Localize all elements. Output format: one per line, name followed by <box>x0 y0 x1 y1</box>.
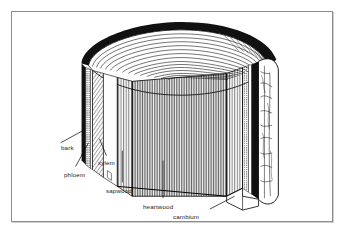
label-xylem: xylem <box>98 159 115 166</box>
label-heartwood: heartwood <box>143 203 173 210</box>
label-cambium: cambium <box>173 213 199 220</box>
tree-trunk-diagram <box>12 12 332 221</box>
label-sapwood: sapwood <box>106 187 132 194</box>
page-root: bark phloem xylem sapwood heartwood camb… <box>0 0 353 239</box>
outer-bark-surface <box>243 59 279 204</box>
tree-trunk-illustration <box>12 12 332 221</box>
left-cut-face <box>82 64 118 187</box>
figure-frame: bark phloem xylem sapwood heartwood camb… <box>11 11 333 222</box>
front-cut-face <box>117 67 242 196</box>
label-bark: bark <box>61 144 74 151</box>
label-phloem: phloem <box>64 171 85 178</box>
leader-line-bark <box>61 131 83 143</box>
